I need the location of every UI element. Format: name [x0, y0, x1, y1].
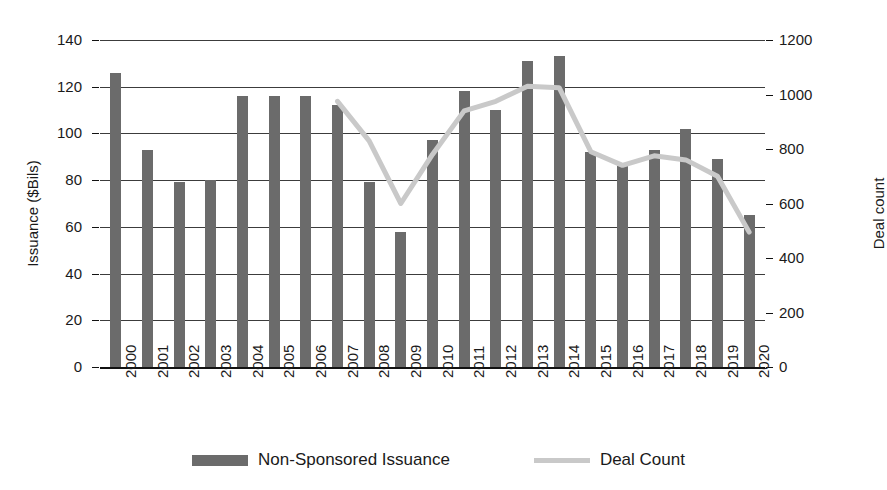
y-left-tick-label-20: 20 — [28, 312, 82, 327]
x-tick-label-2019: 2019 — [725, 345, 740, 378]
bar-2017 — [649, 150, 660, 367]
y-right-tick-mark-800 — [766, 149, 773, 150]
y-left-tick-mark-20 — [92, 320, 99, 321]
x-tick-label-2018: 2018 — [693, 345, 708, 378]
y-left-tick-mark-60 — [92, 227, 99, 228]
y-left-tick-label-140: 140 — [28, 32, 82, 47]
y-right-tick-label-400: 400 — [779, 250, 839, 265]
y-right-tick-label-1200: 1200 — [779, 32, 839, 47]
bar-2019 — [712, 159, 723, 367]
legend-item-deal-count: Deal Count — [534, 450, 685, 470]
x-tick-label-2006: 2006 — [313, 345, 328, 378]
x-tick-label-2008: 2008 — [376, 345, 391, 378]
bar-2013 — [522, 61, 533, 367]
x-tick-label-2013: 2013 — [535, 345, 550, 378]
y-left-tick-mark-100 — [92, 133, 99, 134]
bar-2001 — [142, 150, 153, 367]
x-tick-label-2020: 2020 — [756, 345, 771, 378]
bar-2009 — [395, 232, 406, 367]
y-right-tick-label-600: 600 — [779, 196, 839, 211]
x-tick-label-2011: 2011 — [471, 346, 486, 378]
gridline-140 — [100, 40, 765, 41]
legend-label-deal-count: Deal Count — [600, 450, 685, 470]
bar-2018 — [680, 129, 691, 367]
y-left-tick-label-80: 80 — [28, 172, 82, 187]
x-tick-label-2014: 2014 — [566, 345, 581, 378]
line-swatch-icon — [534, 458, 590, 463]
y-right-tick-mark-200 — [766, 313, 773, 314]
y-left-tick-mark-140 — [92, 40, 99, 41]
gridline-120 — [100, 87, 765, 88]
y-left-tick-label-120: 120 — [28, 79, 82, 94]
y-right-tick-label-200: 200 — [779, 305, 839, 320]
chart-legend: Non-Sponsored Issuance Deal Count — [0, 443, 877, 477]
bar-2007 — [332, 105, 343, 367]
bar-2012 — [490, 110, 501, 367]
y-left-tick-mark-0 — [92, 367, 99, 368]
legend-item-non-sponsored-issuance: Non-Sponsored Issuance — [192, 450, 450, 470]
y-right-tick-mark-600 — [766, 204, 773, 205]
bar-2003 — [205, 180, 216, 367]
bar-2010 — [427, 140, 438, 367]
y-left-tick-label-60: 60 — [28, 219, 82, 234]
legend-label-non-sponsored-issuance: Non-Sponsored Issuance — [258, 450, 450, 470]
y-right-tick-label-800: 800 — [779, 141, 839, 156]
y-left-tick-label-0: 0 — [28, 359, 82, 374]
gridline-100 — [100, 133, 765, 134]
y-left-tick-mark-120 — [92, 87, 99, 88]
y-axis-right-title: Deal count — [870, 64, 887, 364]
y-right-tick-label-0: 0 — [779, 359, 839, 374]
bar-2008 — [364, 182, 375, 367]
x-tick-label-2015: 2015 — [598, 345, 613, 378]
y-left-tick-label-100: 100 — [28, 125, 82, 140]
bar-2020 — [744, 215, 755, 367]
x-tick-label-2017: 2017 — [661, 345, 676, 378]
bar-2016 — [617, 166, 628, 367]
bar-2004 — [237, 96, 248, 367]
x-tick-label-2002: 2002 — [186, 345, 201, 378]
bar-2005 — [269, 96, 280, 367]
x-tick-label-2012: 2012 — [503, 345, 518, 378]
bar-2006 — [300, 96, 311, 367]
bar-2011 — [459, 91, 470, 367]
bar-2000 — [110, 73, 121, 367]
y-right-tick-mark-1000 — [766, 95, 773, 96]
x-tick-label-2003: 2003 — [218, 345, 233, 378]
x-tick-label-2009: 2009 — [408, 345, 423, 378]
x-tick-label-2005: 2005 — [281, 345, 296, 378]
x-tick-label-2000: 2000 — [123, 345, 138, 378]
y-left-tick-mark-40 — [92, 274, 99, 275]
y-right-tick-label-1000: 1000 — [779, 87, 839, 102]
x-tick-label-2004: 2004 — [250, 345, 265, 378]
bar-2014 — [554, 56, 565, 367]
x-tick-label-2001: 2001 — [155, 345, 170, 378]
x-tick-label-2016: 2016 — [630, 345, 645, 378]
bar-2015 — [585, 152, 596, 367]
bar-swatch-icon — [192, 455, 248, 466]
y-right-tick-mark-1200 — [766, 40, 773, 41]
bar-2002 — [174, 182, 185, 367]
y-left-tick-label-40: 40 — [28, 266, 82, 281]
y-left-tick-mark-80 — [92, 180, 99, 181]
x-tick-label-2007: 2007 — [345, 345, 360, 378]
y-right-tick-mark-400 — [766, 258, 773, 259]
x-tick-label-2010: 2010 — [440, 345, 455, 378]
